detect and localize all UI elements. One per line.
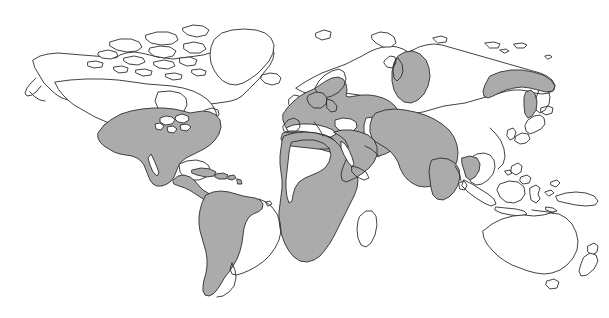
caribbean-lesser-antilles (237, 179, 242, 184)
caribbean-hispaniola (215, 173, 228, 179)
world-distribution-map (0, 0, 609, 318)
map-canvas (0, 0, 609, 318)
